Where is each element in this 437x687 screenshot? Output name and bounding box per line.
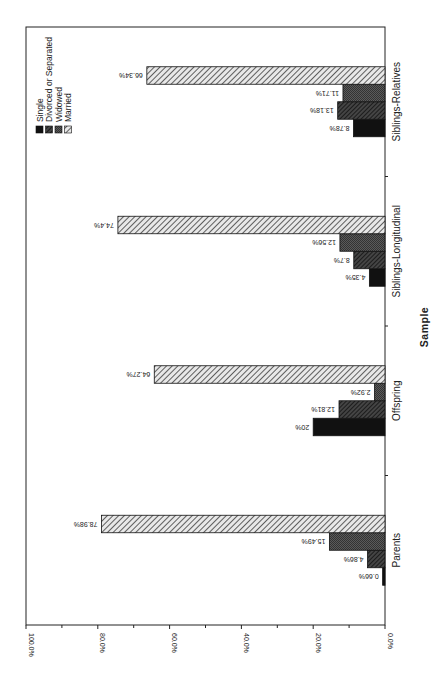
category-label: Offspring bbox=[391, 381, 402, 421]
bar-value-label: 13.18% bbox=[310, 107, 334, 114]
legend-swatch-widowed bbox=[55, 126, 62, 133]
value-axis-tick-label: 60.0% bbox=[171, 633, 178, 653]
bar-value-label: 0.66% bbox=[359, 573, 379, 580]
legend-label: Divorced or Separated bbox=[44, 37, 54, 122]
bar-value-label: 74.4% bbox=[94, 222, 114, 229]
bar-divorced-or-separated bbox=[368, 550, 385, 568]
value-axis-tick-label: 40.0% bbox=[243, 633, 250, 653]
bar-widowed bbox=[340, 234, 385, 252]
plot-area: 0.0%20.0%40.0%60.0%80.0%100.0%Parents0.6… bbox=[26, 27, 430, 657]
bar-value-label: 2.92% bbox=[351, 389, 371, 396]
legend-swatch-married bbox=[65, 126, 72, 133]
bar-value-label: 8.78% bbox=[330, 125, 350, 132]
category-label: Siblings-Relatives bbox=[391, 62, 402, 141]
legend-label: Married bbox=[63, 93, 73, 122]
legend-label: Single bbox=[35, 98, 45, 122]
bar-divorced-or-separated bbox=[339, 401, 385, 419]
bar-widowed bbox=[375, 383, 385, 401]
bar-single bbox=[383, 568, 385, 586]
bar-value-label: 12.56% bbox=[312, 239, 336, 246]
bar-chart: 0.0%20.0%40.0%60.0%80.0%100.0%Parents0.6… bbox=[0, 0, 437, 687]
value-axis-tick-label: 100.0% bbox=[28, 633, 35, 657]
value-axis-tick-label: 20.0% bbox=[315, 633, 322, 653]
bar-married bbox=[118, 216, 385, 234]
value-axis-tick-label: 0.0% bbox=[387, 633, 394, 649]
bar-value-label: 20% bbox=[295, 424, 309, 431]
bar-widowed bbox=[343, 84, 385, 102]
category-axis-title: Sample bbox=[418, 307, 430, 347]
legend-swatch-divorced-or-separated bbox=[46, 126, 53, 133]
bar-single bbox=[353, 119, 385, 137]
bar-married bbox=[154, 366, 385, 384]
bar-value-label: 4.35% bbox=[346, 274, 366, 281]
category-label: Parents bbox=[391, 533, 402, 567]
bar-widowed bbox=[329, 533, 385, 551]
bar-married bbox=[101, 515, 385, 533]
bar-value-label: 4.86% bbox=[344, 556, 364, 563]
bar-married bbox=[147, 67, 385, 85]
bar-value-label: 15.49% bbox=[302, 538, 326, 545]
bar-divorced-or-separated bbox=[354, 251, 385, 269]
bar-single bbox=[369, 269, 385, 287]
category-label: Siblings-Longitudinal bbox=[391, 205, 402, 297]
bar-value-label: 11.71% bbox=[316, 90, 339, 97]
bar-single bbox=[313, 418, 385, 436]
bar-value-label: 78.98% bbox=[74, 521, 98, 528]
bar-value-label: 64.27% bbox=[127, 371, 151, 378]
bar-divorced-or-separated bbox=[338, 102, 385, 120]
legend-label: Widowed bbox=[54, 87, 64, 122]
bar-value-label: 66.34% bbox=[119, 72, 143, 79]
legend-swatch-single bbox=[36, 126, 43, 133]
value-axis-tick-label: 80.0% bbox=[99, 633, 106, 653]
bar-value-label: 12.81% bbox=[311, 406, 335, 413]
bar-value-label: 8.7% bbox=[334, 257, 350, 264]
